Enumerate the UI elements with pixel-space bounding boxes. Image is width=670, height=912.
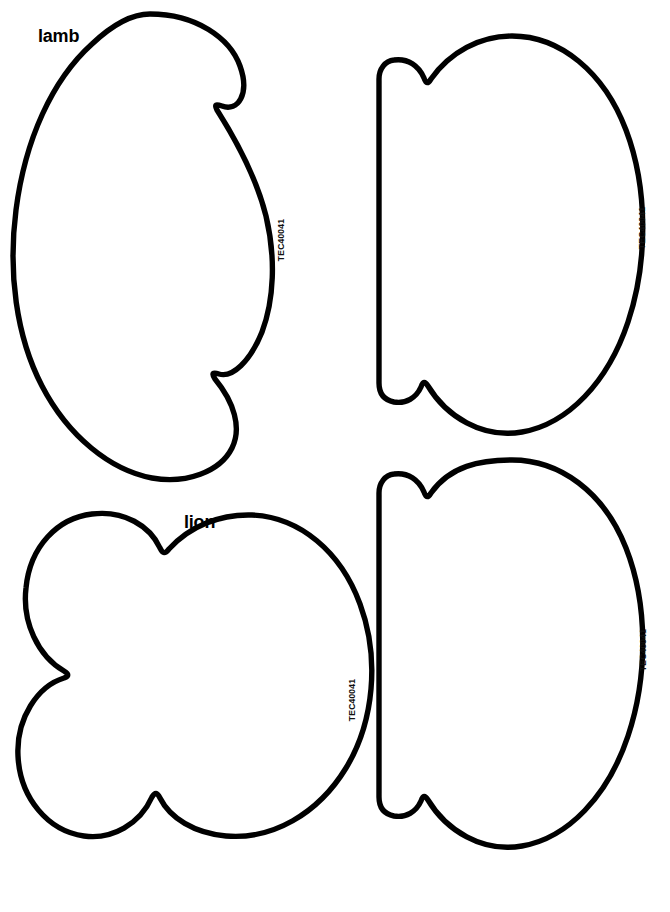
lion-front-code-label: TEC40041 [347,679,357,721]
lion-back-code-label: TEC40041 [638,629,648,671]
lion-label: lion [184,512,215,532]
lamb-front-code-label: TEC40041 [276,219,286,261]
lamb-head-pattern-piece[interactable]: lamb TEC40041 [13,14,286,480]
lamb-head-outline[interactable] [13,14,272,480]
lion-head-pattern-piece[interactable]: lion TEC40041 [18,512,372,837]
lamb-backing-pattern-piece[interactable]: TEC40041 [379,36,647,433]
lamb-label: lamb [38,26,79,46]
pattern-sheet-page: lamb TEC40041 TEC40041 lion TEC40041 TEC… [0,0,670,912]
lamb-backing-outline[interactable] [379,36,643,433]
lion-backing-outline[interactable] [379,460,643,847]
pattern-canvas: lamb TEC40041 TEC40041 lion TEC40041 TEC… [0,0,670,912]
lion-backing-pattern-piece[interactable]: TEC40041 [379,460,648,847]
lion-head-outline[interactable] [18,513,372,836]
lamb-back-code-label: TEC40041 [637,207,647,249]
